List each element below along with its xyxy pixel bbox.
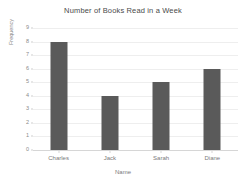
x-tick-mark (109, 150, 110, 153)
y-tick-label: 0 (26, 147, 29, 153)
y-axis-title: Frequency (8, 2, 14, 62)
y-tick-label: 1 (26, 134, 29, 140)
chart-title: Number of Books Read in a Week (0, 6, 246, 15)
y-tick-label: 4 (26, 93, 29, 99)
bar (153, 82, 170, 150)
bar (204, 69, 221, 150)
bar-series (33, 28, 238, 150)
bar (101, 96, 118, 150)
bar-chart: Number of Books Read in a Week Frequency… (0, 0, 246, 190)
x-axis-title: Name (0, 169, 246, 175)
y-tick-label: 9 (26, 25, 29, 31)
plot-area: 0123456789 CharlesJackSarahDiane (33, 28, 238, 150)
gridline (33, 150, 238, 151)
x-tick-mark (58, 150, 59, 153)
y-tick-label: 2 (26, 120, 29, 126)
y-tick-label: 7 (26, 52, 29, 58)
x-tick-label: Diane (205, 155, 221, 161)
x-tick-mark (212, 150, 213, 153)
y-tick-label: 8 (26, 39, 29, 45)
y-tick-label: 6 (26, 66, 29, 72)
y-tick-label: 5 (26, 79, 29, 85)
x-tick-mark (161, 150, 162, 153)
x-tick-label: Jack (104, 155, 116, 161)
x-tick-label: Charles (48, 155, 69, 161)
x-tick-label: Sarah (153, 155, 169, 161)
y-tick-label: 3 (26, 107, 29, 113)
bar (50, 42, 67, 150)
